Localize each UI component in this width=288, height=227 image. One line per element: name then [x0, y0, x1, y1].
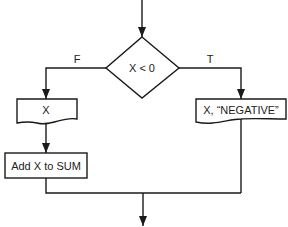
exit-arrowhead: [139, 216, 147, 226]
true-branch-label: T: [207, 53, 214, 65]
flowchart-canvas: X < 0 F T X Add X to SUM X, “NEGATIVE”: [0, 0, 288, 227]
add-to-sum-label: Add X to SUM: [11, 160, 81, 172]
output-x-label: X: [42, 104, 50, 116]
false-branch-label: F: [74, 53, 81, 65]
true-branch-arrowhead: [237, 89, 245, 99]
decision-label: X < 0: [129, 62, 155, 74]
false-branch-connector: [46, 68, 106, 99]
output-negative-label: X, “NEGATIVE”: [203, 104, 279, 116]
entry-arrowhead: [138, 27, 146, 37]
false-branch-arrowhead: [42, 89, 50, 99]
add-arrowhead: [42, 143, 50, 153]
true-branch-connector: [179, 68, 241, 99]
left-merge-connector: [46, 178, 241, 193]
